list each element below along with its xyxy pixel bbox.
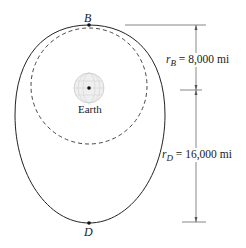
earth-icon xyxy=(74,73,104,103)
elliptical-orbit xyxy=(15,25,165,223)
point-d-label: D xyxy=(84,226,93,238)
rb-dimension-label: rB = 8,000 mi xyxy=(166,53,229,67)
point-b-label: B xyxy=(84,12,91,24)
earth-label: Earth xyxy=(78,104,102,115)
rd-dimension-label: rD = 16,000 mi xyxy=(162,148,232,162)
diagram-canvas xyxy=(0,0,246,248)
orbit-diagram: B D Earth rB = 8,000 mi rD = 16,000 mi xyxy=(0,0,246,248)
